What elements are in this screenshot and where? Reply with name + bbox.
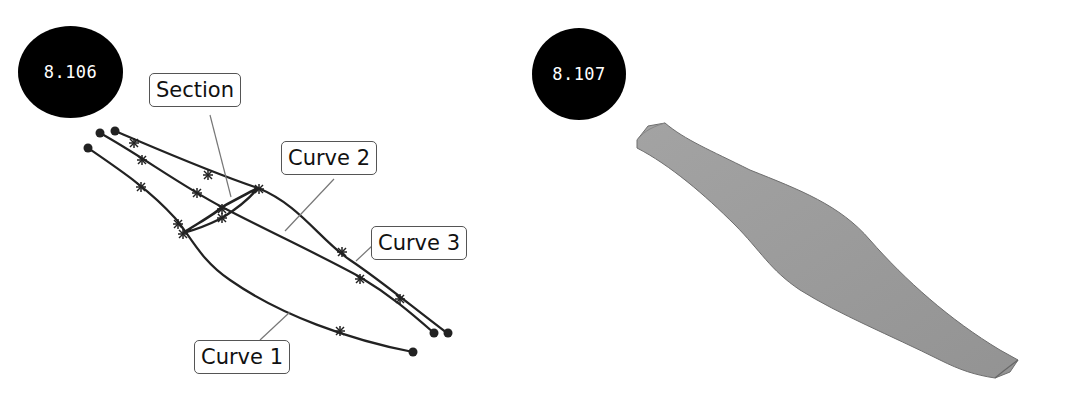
swept-surface (520, 0, 1071, 407)
figure-8-107: 8.107 (520, 0, 1071, 407)
callout-section-label: Section (156, 78, 234, 102)
callout-curve-1-label: Curve 1 (201, 345, 283, 369)
surface-body (637, 123, 1018, 378)
figure-8-106: 8.106 (0, 0, 520, 407)
callout-curve-3: Curve 3 (371, 226, 467, 260)
callout-curve-1: Curve 1 (194, 340, 290, 374)
callout-curve-3-label: Curve 3 (378, 231, 460, 255)
callout-curve-2-label: Curve 2 (288, 146, 370, 170)
curve-1-path (88, 148, 413, 352)
callout-section: Section (149, 73, 241, 107)
callout-curve-2: Curve 2 (281, 141, 377, 175)
